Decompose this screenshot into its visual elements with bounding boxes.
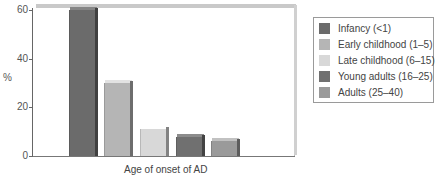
- bar: [69, 7, 98, 156]
- legend-label: Adults (25–40): [338, 87, 403, 98]
- bar: [211, 138, 240, 156]
- bar: [176, 134, 205, 156]
- y-tick-label: 20: [8, 101, 28, 112]
- legend-item: Infancy (<1): [319, 22, 391, 34]
- y-tick: [29, 10, 33, 11]
- legend-swatch: [319, 39, 330, 50]
- legend-swatch: [319, 87, 330, 98]
- y-axis-label: %: [3, 72, 12, 83]
- y-tick: [29, 107, 33, 108]
- bar: [140, 126, 169, 156]
- legend-label: Infancy (<1): [338, 23, 391, 34]
- plot-right-wall: [294, 5, 297, 155]
- legend-label: Early childhood (1–5): [338, 39, 433, 50]
- y-tick-label: 0: [8, 150, 28, 161]
- legend-item: Young adults (16–25): [319, 70, 433, 82]
- legend-swatch: [319, 71, 330, 82]
- legend-label: Young adults (16–25): [338, 71, 433, 82]
- legend-item: Adults (25–40): [319, 86, 403, 98]
- x-axis-label: Age of onset of AD: [124, 164, 207, 175]
- bar: [104, 80, 133, 156]
- x-axis: [32, 156, 295, 157]
- legend-swatch: [319, 23, 330, 34]
- legend: Infancy (<1) Early childhood (1–5) Late …: [313, 17, 434, 103]
- legend-label: Late childhood (6–15): [338, 55, 435, 66]
- legend-swatch: [319, 55, 330, 66]
- legend-item: Early childhood (1–5): [319, 38, 433, 50]
- y-axis: [32, 8, 33, 157]
- y-tick-label: 40: [8, 53, 28, 64]
- y-tick: [29, 156, 33, 157]
- y-tick: [29, 59, 33, 60]
- legend-item: Late childhood (6–15): [319, 54, 435, 66]
- y-tick-label: 60: [8, 4, 28, 15]
